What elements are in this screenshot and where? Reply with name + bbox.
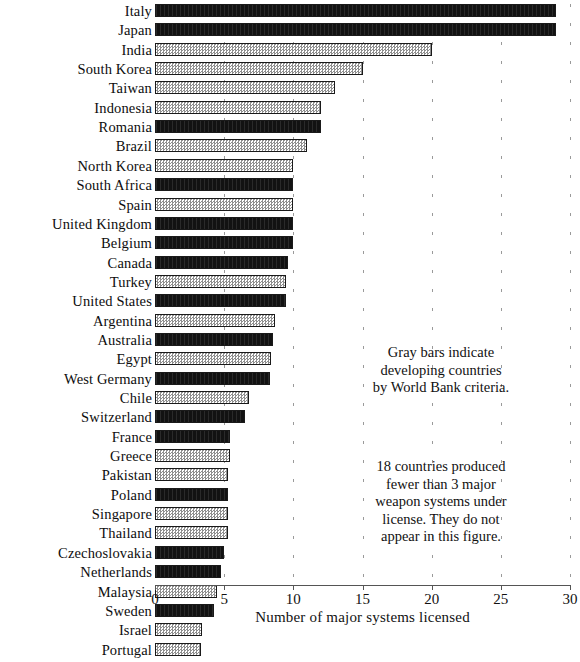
bar-india — [155, 43, 432, 56]
annotation-line: Gray bars indicate — [336, 344, 546, 362]
category-label: West Germany — [0, 372, 152, 386]
x-tick-label-20: 20 — [412, 591, 452, 608]
category-label: India — [0, 43, 152, 57]
category-label: Brazil — [0, 139, 152, 153]
bar-belgium — [155, 236, 293, 249]
category-label: Belgium — [0, 236, 152, 250]
bar-row: India — [0, 43, 580, 62]
bar-row: Portugal — [0, 643, 580, 662]
bar-row: Brazil — [0, 139, 580, 158]
x-tick-label-10: 10 — [273, 591, 313, 608]
bar-row: South Africa — [0, 178, 580, 197]
bar-chile — [155, 391, 249, 404]
category-label: Argentina — [0, 314, 152, 328]
bar-italy — [155, 4, 556, 17]
excluded-countries-annotation: 18 countries producedfewer than 3 majorw… — [330, 458, 552, 546]
bar-row: Belgium — [0, 236, 580, 255]
bar-singapore — [155, 507, 228, 520]
category-label: Japan — [0, 23, 152, 37]
bar-row: Italy — [0, 4, 580, 23]
x-tick-20 — [432, 585, 433, 590]
bar-row: Israel — [0, 623, 580, 642]
bar-argentina — [155, 314, 275, 327]
x-tick-5 — [224, 585, 225, 590]
category-label: France — [0, 430, 152, 444]
category-label: United States — [0, 294, 152, 308]
category-label: Malaysia — [0, 585, 152, 599]
bar-row: Taiwan — [0, 81, 580, 100]
bar-row: Japan — [0, 23, 580, 42]
bar-australia — [155, 333, 273, 346]
x-tick-label-30: 30 — [550, 591, 580, 608]
category-label: Portugal — [0, 643, 152, 657]
category-label: Turkey — [0, 275, 152, 289]
bar-japan — [155, 23, 556, 36]
bar-brazil — [155, 139, 307, 152]
bar-row: United Kingdom — [0, 217, 580, 236]
annotation-line: 18 countries produced — [330, 458, 552, 476]
x-tick-30 — [570, 585, 571, 590]
bar-north-korea — [155, 159, 293, 172]
category-label: Poland — [0, 488, 152, 502]
annotation-line: weapon systems under — [330, 493, 552, 511]
x-tick-label-5: 5 — [204, 591, 244, 608]
bar-row: Canada — [0, 256, 580, 275]
bar-spain — [155, 198, 293, 211]
x-tick-0 — [155, 585, 156, 590]
bar-row: Argentina — [0, 314, 580, 333]
category-label: Sweden — [0, 604, 152, 618]
bar-czechoslovakia — [155, 546, 224, 559]
category-label: Romania — [0, 120, 152, 134]
bar-thailand — [155, 526, 228, 539]
annotation-line: by World Bank criteria. — [336, 379, 546, 397]
category-label: Czechoslovakia — [0, 546, 152, 560]
x-tick-label-0: 0 — [135, 591, 175, 608]
bar-south-korea — [155, 62, 363, 75]
bar-united-kingdom — [155, 217, 293, 230]
annotation-line: license. They do not — [330, 511, 552, 529]
category-label: Indonesia — [0, 101, 152, 115]
bar-row: Switzerland — [0, 410, 580, 429]
category-label: Chile — [0, 391, 152, 405]
bar-west-germany — [155, 372, 270, 385]
x-tick-25 — [501, 585, 502, 590]
bar-united-states — [155, 294, 286, 307]
bar-row: Romania — [0, 120, 580, 139]
category-label: Italy — [0, 4, 152, 18]
bar-row: South Korea — [0, 62, 580, 81]
category-label: Israel — [0, 623, 152, 637]
bar-pakistan — [155, 468, 228, 481]
x-tick-10 — [293, 585, 294, 590]
bar-row: Indonesia — [0, 101, 580, 120]
bar-romania — [155, 120, 321, 133]
bar-row: France — [0, 430, 580, 449]
category-label: Australia — [0, 333, 152, 347]
bar-portugal — [155, 643, 201, 656]
bar-turkey — [155, 275, 286, 288]
category-label: Netherlands — [0, 565, 152, 579]
bar-row: Netherlands — [0, 565, 580, 584]
category-label: Switzerland — [0, 410, 152, 424]
category-label: Singapore — [0, 507, 152, 521]
bar-row: Czechoslovakia — [0, 546, 580, 565]
x-tick-15 — [363, 585, 364, 590]
category-label: South Africa — [0, 178, 152, 192]
category-label: North Korea — [0, 159, 152, 173]
bar-canada — [155, 256, 288, 269]
category-label: Canada — [0, 256, 152, 270]
bar-row: United States — [0, 294, 580, 313]
bar-egypt — [155, 352, 271, 365]
bar-south-africa — [155, 178, 293, 191]
bar-row: Turkey — [0, 275, 580, 294]
category-label: Egypt — [0, 352, 152, 366]
category-label: United Kingdom — [0, 217, 152, 231]
bar-france — [155, 430, 230, 443]
category-label: Taiwan — [0, 81, 152, 95]
x-tick-label-25: 25 — [481, 591, 521, 608]
category-label: Spain — [0, 198, 152, 212]
annotation-line: fewer than 3 major — [330, 476, 552, 494]
x-axis-label: Number of major systems licensed — [155, 609, 570, 626]
category-label: Thailand — [0, 526, 152, 540]
legend-annotation: Gray bars indicatedeveloping countriesby… — [336, 344, 546, 397]
